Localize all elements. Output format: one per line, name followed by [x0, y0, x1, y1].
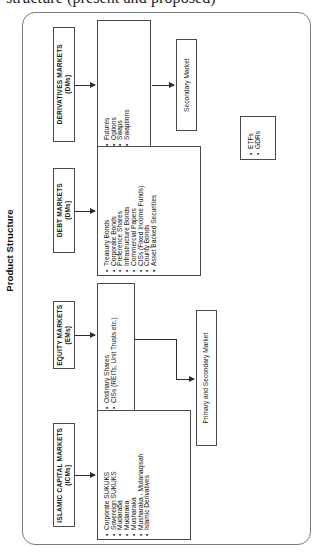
list-item: •Islamic Derivatives: [144, 418, 151, 536]
side-box-etfs-gdrs[interactable]: •ETFs •GDRs: [240, 116, 276, 160]
figure-caption: structure (present and proposed): [6, 0, 216, 7]
instrument-list-derivatives[interactable]: •Futures •Options •Swaps •Swaptions: [97, 20, 151, 150]
category-box-derivatives-markets[interactable]: DERIVATIVES MARKETS (DMs): [53, 27, 75, 142]
arrow-derivatives-to-secondary-market: [152, 85, 174, 86]
category-label-debt-markets: DEBT MARKETS (DMs): [56, 183, 72, 237]
diagram-canvas: DERIVATIVES MARKETS (DMs) •Futures •Opti…: [23, 13, 312, 546]
bullet-icon: •: [151, 266, 158, 272]
bullet-icon: •: [255, 149, 262, 155]
outcome-box-secondary-market[interactable]: Secondary Market: [176, 39, 197, 131]
connector-equity-vertical: [176, 339, 177, 379]
category-label-islamic-capital-markets: ISLAMIC CAPITAL MARKETS (ICMs): [56, 428, 72, 523]
connector-equity-horizontal: [135, 339, 177, 340]
outcome-box-primary-and-secondary-market[interactable]: Primary and Secondary Market: [196, 310, 217, 446]
arrow-debt-to-instruments: [75, 211, 95, 212]
bullet-icon: •: [144, 530, 151, 536]
category-label-equity-markets: EQUITY MARKETS (EMs): [56, 305, 72, 366]
page-title: Product Structure: [4, 201, 15, 301]
category-box-equity-markets[interactable]: EQUITY MARKETS (EMs): [53, 301, 75, 369]
arrow-equity-to-instruments: [75, 335, 95, 336]
list-item: •GDRs: [255, 123, 262, 155]
list-item: •Asset Backed Securities: [151, 154, 158, 272]
instrument-list-islamic[interactable]: •Corporate SUKUKS •Sovereign SUKUKS •Mud…: [97, 410, 191, 540]
arrow-derivatives-to-instruments: [75, 85, 95, 86]
diagram-frame: DERIVATIVES MARKETS (DMs) •Futures •Opti…: [22, 12, 311, 545]
instrument-list-equity[interactable]: •Ordinary Shares •CISs (REITs, Unit Trus…: [97, 283, 135, 413]
list-item: •CISs (REITs, Unit Trusts etc.): [111, 291, 118, 409]
arrow-equity-to-primary-secondary-market: [176, 379, 194, 380]
arrow-islamic-to-instruments: [75, 475, 95, 476]
category-box-debt-markets[interactable]: DEBT MARKETS (DMs): [53, 168, 75, 253]
list-item: •Swaptions: [124, 28, 131, 146]
bullet-icon: •: [111, 403, 118, 409]
category-box-islamic-capital-markets[interactable]: ISLAMIC CAPITAL MARKETS (ICMs): [53, 423, 75, 527]
outcome-label-secondary-market: Secondary Market: [182, 58, 190, 112]
instrument-list-debt[interactable]: •Treasury Bonds •Corporate Bonds •Prefer…: [97, 146, 201, 276]
outcome-label-primary-and-secondary-market: Primary and Secondary Market: [202, 333, 210, 424]
category-label-derivatives-markets: DERIVATIVES MARKETS (DMs): [56, 44, 72, 124]
